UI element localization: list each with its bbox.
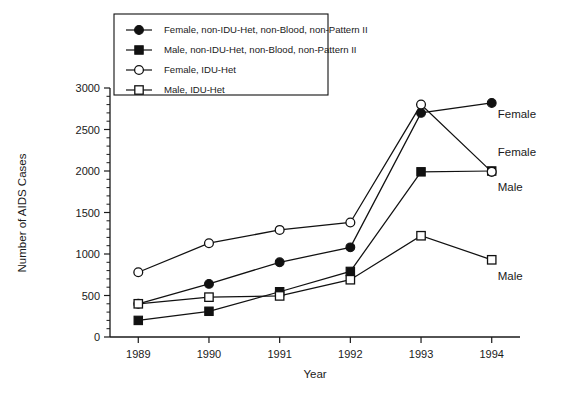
data-point-0-2 [275, 258, 284, 267]
data-point-3-1 [205, 293, 213, 301]
series-0 [134, 99, 496, 309]
y-tick-label: 2000 [76, 165, 100, 177]
data-point-3-0 [134, 300, 142, 308]
data-point-1-4 [417, 168, 425, 176]
y-axis-title: Number of AIDS Cases [16, 153, 28, 272]
series-annotations: FemaleFemaleMaleMale [498, 108, 536, 282]
x-tick-label: 1993 [409, 348, 433, 360]
legend-label-0: Female, non-IDU-Het, non-Blood, non-Patt… [164, 24, 368, 35]
x-axis-ticks [138, 337, 491, 343]
series-line-1 [138, 171, 491, 320]
data-point-2-2 [275, 226, 284, 235]
series-line-2 [138, 105, 491, 273]
data-point-2-5 [487, 167, 496, 176]
x-axis-title: Year [303, 368, 326, 380]
data-point-1-3 [346, 267, 354, 275]
data-point-2-0 [134, 268, 143, 277]
data-point-2-3 [346, 218, 355, 227]
axis-group [110, 88, 520, 337]
legend-label-1: Male, non-IDU-Het, non-Blood, non-Patter… [164, 44, 357, 55]
x-tick-label: 1989 [126, 348, 150, 360]
series-3 [134, 232, 496, 308]
y-tick-label: 1500 [76, 207, 100, 219]
data-point-1-1 [205, 307, 213, 315]
x-tick-label: 1991 [267, 348, 291, 360]
series-group [134, 99, 496, 325]
data-point-2-1 [205, 239, 214, 248]
data-point-0-3 [346, 243, 355, 252]
legend-label-3: Male, IDU-Het [164, 84, 225, 95]
x-axis-tick-labels: 198919901991199219931994 [126, 348, 504, 360]
y-tick-label: 0 [94, 331, 100, 343]
annotation-male-idu: Male [498, 270, 523, 282]
series-1 [134, 167, 496, 325]
annotation-female-idu: Female [498, 146, 536, 158]
chart-canvas: 050010001500200025003000 198919901991199… [0, 0, 561, 399]
x-tick-label: 1994 [479, 348, 503, 360]
data-point-1-0 [134, 316, 142, 324]
series-2 [134, 100, 496, 276]
data-point-0-5 [487, 99, 496, 108]
data-point-3-5 [488, 256, 496, 264]
data-point-3-3 [346, 276, 354, 284]
annotation-male-nonidu: Male [498, 181, 523, 193]
x-tick-label: 1992 [338, 348, 362, 360]
legend-item-3: Male, IDU-Het [126, 84, 225, 95]
series-line-3 [138, 236, 491, 304]
series-line-0 [138, 103, 491, 304]
legend-marker-2 [135, 66, 144, 75]
aids-cases-line-chart: 050010001500200025003000 198919901991199… [0, 0, 561, 399]
data-point-0-1 [205, 279, 214, 288]
legend: Female, non-IDU-Het, non-Blood, non-Patt… [114, 14, 368, 95]
legend-marker-1 [135, 46, 143, 54]
y-axis-tick-labels: 050010001500200025003000 [76, 82, 100, 343]
y-tick-label: 2500 [76, 124, 100, 136]
x-tick-label: 1990 [197, 348, 221, 360]
data-point-2-4 [417, 100, 426, 109]
data-point-3-4 [417, 232, 425, 240]
y-tick-label: 3000 [76, 82, 100, 94]
data-point-3-2 [275, 292, 283, 300]
legend-marker-3 [135, 86, 143, 94]
y-tick-label: 1000 [76, 248, 100, 260]
y-axis-ticks [104, 88, 110, 337]
legend-label-2: Female, IDU-Het [164, 64, 236, 75]
legend-marker-0 [135, 26, 144, 35]
y-tick-label: 500 [82, 290, 100, 302]
annotation-female-nonidu: Female [498, 108, 536, 120]
